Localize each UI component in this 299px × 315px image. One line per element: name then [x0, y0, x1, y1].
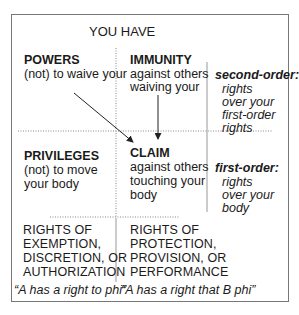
- immunity-title: IMMUNITY: [130, 54, 192, 68]
- left-category-line: RIGHTS OF: [23, 224, 92, 238]
- right-formula: “A has a right that B phi”: [121, 284, 255, 298]
- left-formula: “A has a right to phi”: [14, 284, 126, 298]
- claim-desc-line: against others: [130, 161, 209, 175]
- immunity-desc-line: waiving your: [130, 81, 199, 95]
- first-order-title: first-order:: [215, 162, 279, 176]
- second-order-title: second-order:: [215, 69, 299, 83]
- privileges-desc-line: (not) to move: [24, 164, 98, 178]
- claim-title: CLAIM: [130, 147, 170, 161]
- first-order-line: body: [222, 202, 249, 216]
- claim-desc-line: body: [130, 189, 157, 203]
- powers-title: POWERS: [24, 54, 80, 68]
- header-title: YOU HAVE: [89, 25, 155, 39]
- powers-desc: (not) to waive your: [24, 68, 127, 82]
- right-category-line: PROTECTION,: [130, 238, 217, 252]
- right-category-line: PROVISION, OR: [130, 252, 226, 266]
- claim-desc-line: touching your: [130, 175, 205, 189]
- second-order-line: rights: [222, 122, 253, 136]
- privileges-desc-line: your body: [24, 178, 79, 192]
- right-category-line: PERFORMANCE: [130, 266, 228, 280]
- left-category-line: DISCRETION, OR: [23, 252, 127, 266]
- left-category-line: AUTHORIZATION: [23, 266, 125, 280]
- left-category-line: EXEMPTION,: [23, 238, 101, 252]
- privileges-title: PRIVILEGES: [24, 150, 99, 164]
- arrow-powers-to-claim: [74, 93, 133, 142]
- right-category-line: RIGHTS OF: [130, 224, 199, 238]
